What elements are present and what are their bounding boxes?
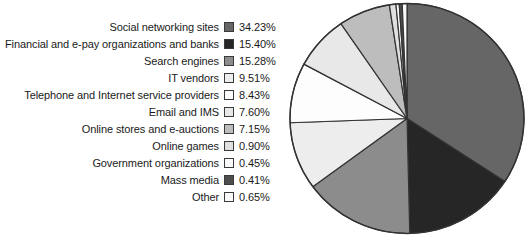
legend-item-value: 7.60% xyxy=(239,106,281,118)
pie-chart-figure: Social networking sites34.23%Financial a… xyxy=(0,0,531,237)
legend-item-label: Online stores and e-auctions xyxy=(82,123,219,135)
legend-color-swatch xyxy=(224,22,234,32)
legend-color-swatch xyxy=(224,56,234,66)
legend-item[interactable]: Financial and e-pay organizations and ba… xyxy=(0,35,281,52)
legend-item-value: 9.51% xyxy=(239,72,281,84)
legend-color-swatch xyxy=(224,90,234,100)
legend-item-label: Email and IMS xyxy=(149,106,219,118)
legend-color-swatch xyxy=(224,124,234,134)
legend-item-label: Search engines xyxy=(144,55,219,67)
legend-item-label: Telephone and Internet service providers xyxy=(24,89,219,101)
legend-item[interactable]: IT vendors9.51% xyxy=(0,69,281,86)
legend-item-label: Social networking sites xyxy=(109,21,219,33)
pie-svg xyxy=(288,2,526,235)
legend-item[interactable]: Online stores and e-auctions7.15% xyxy=(0,121,281,138)
legend-item-value: 7.15% xyxy=(239,123,281,135)
legend-item[interactable]: Telephone and Internet service providers… xyxy=(0,86,281,103)
legend-color-swatch xyxy=(224,192,234,202)
legend-item[interactable]: Government organizations0.45% xyxy=(0,155,281,172)
legend-color-swatch xyxy=(224,73,234,83)
legend-item[interactable]: Social networking sites34.23% xyxy=(0,18,281,35)
legend-item-label: Mass media xyxy=(161,174,219,186)
legend-color-swatch xyxy=(224,39,234,49)
legend-item-label: Government organizations xyxy=(92,157,219,169)
legend-item-value: 15.40% xyxy=(239,38,281,50)
legend-item[interactable]: Search engines15.28% xyxy=(0,52,281,69)
legend-color-swatch xyxy=(224,141,234,151)
legend-item[interactable]: Mass media0.41% xyxy=(0,172,281,189)
legend-color-swatch xyxy=(224,158,234,168)
legend-item-value: 0.90% xyxy=(239,140,281,152)
legend-item[interactable]: Online games0.90% xyxy=(0,138,281,155)
legend-item-label: Other xyxy=(192,191,219,203)
legend-item-value: 8.43% xyxy=(239,89,281,101)
legend-item-value: 15.28% xyxy=(239,55,281,67)
legend-item-label: IT vendors xyxy=(168,72,219,84)
legend-item[interactable]: Other0.65% xyxy=(0,189,281,206)
legend-color-swatch xyxy=(224,107,234,117)
legend-item-label: Financial and e-pay organizations and ba… xyxy=(5,38,219,50)
legend-color-swatch xyxy=(224,175,234,185)
legend-item-value: 0.45% xyxy=(239,157,281,169)
legend-item-label: Online games xyxy=(152,140,219,152)
legend-item-value: 0.41% xyxy=(239,174,281,186)
legend-item[interactable]: Email and IMS7.60% xyxy=(0,103,281,120)
chart-legend: Social networking sites34.23%Financial a… xyxy=(0,18,281,206)
legend-item-value: 34.23% xyxy=(239,21,281,33)
legend-item-value: 0.65% xyxy=(239,191,281,203)
pie-chart-graphic xyxy=(288,2,526,235)
